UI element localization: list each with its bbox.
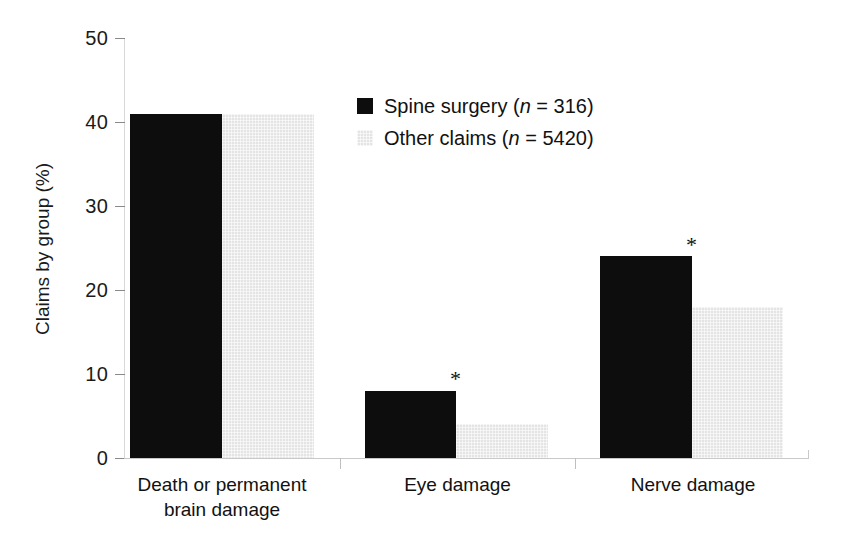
legend-label-prefix: Other claims ( bbox=[384, 127, 508, 149]
x-label-nerve-damage: Nerve damage bbox=[598, 472, 788, 497]
bar-spine-surgery-death-brain-damage bbox=[130, 114, 222, 458]
y-tick-label-40-wrap: 40 bbox=[52, 112, 108, 132]
y-tick-20 bbox=[115, 290, 125, 291]
x-label-line-1: Nerve damage bbox=[598, 472, 788, 497]
y-tick-label-20: 20 bbox=[60, 280, 108, 300]
legend-label-suffix: = 316) bbox=[531, 95, 594, 117]
y-tick-label-10: 10 bbox=[60, 364, 108, 384]
x-label-line-1: Eye damage bbox=[365, 472, 550, 497]
legend: Spine surgery (n = 316) Other claims (n … bbox=[357, 90, 594, 154]
bar-chart: Claims by group (%) 50 40 30 20 10 0 * *… bbox=[0, 0, 841, 536]
legend-item-spine-surgery: Spine surgery (n = 316) bbox=[357, 90, 594, 122]
y-tick-10 bbox=[115, 374, 125, 375]
x-axis-line bbox=[124, 458, 809, 459]
y-axis-title: Claims by group (%) bbox=[32, 109, 54, 389]
legend-swatch-dark-icon bbox=[357, 98, 373, 114]
bar-other-claims-death-brain-damage bbox=[222, 114, 314, 458]
legend-item-other-claims: Other claims (n = 5420) bbox=[357, 122, 594, 154]
significance-star-nerve-damage: * bbox=[686, 234, 697, 256]
legend-label-italic-n: n bbox=[508, 127, 519, 149]
legend-swatch-light-icon bbox=[357, 130, 373, 146]
y-tick-label-40: 40 bbox=[60, 112, 108, 132]
y-tick-label-50: 50 bbox=[60, 28, 108, 48]
y-tick-50 bbox=[115, 38, 125, 39]
y-tick-40 bbox=[115, 122, 125, 123]
bar-spine-surgery-eye-damage bbox=[365, 391, 456, 458]
x-label-eye-damage: Eye damage bbox=[365, 472, 550, 497]
bar-other-claims-eye-damage bbox=[456, 424, 548, 458]
y-tick-label-0: 0 bbox=[60, 448, 108, 468]
x-label-line-1: Death or permanent bbox=[112, 472, 332, 497]
x-label-line-2: brain damage bbox=[112, 497, 332, 522]
legend-label-prefix: Spine surgery ( bbox=[384, 95, 520, 117]
bar-other-claims-nerve-damage bbox=[692, 307, 783, 458]
legend-label-spine-surgery: Spine surgery (n = 316) bbox=[384, 95, 594, 117]
y-tick-label-20-wrap: 20 bbox=[52, 280, 108, 300]
x-separator-tick-1 bbox=[340, 458, 341, 469]
x-separator-tick-2 bbox=[575, 458, 576, 469]
legend-label-suffix: = 5420) bbox=[520, 127, 594, 149]
x-label-death-brain-damage: Death or permanent brain damage bbox=[112, 472, 332, 522]
y-tick-label-30: 30 bbox=[60, 196, 108, 216]
x-axis-end-tick bbox=[808, 450, 809, 459]
y-tick-label-30-wrap: 30 bbox=[52, 196, 108, 216]
legend-label-other-claims: Other claims (n = 5420) bbox=[384, 127, 594, 149]
legend-label-italic-n: n bbox=[520, 95, 531, 117]
y-axis-line bbox=[124, 38, 125, 459]
y-tick-label-0-wrap: 0 bbox=[52, 448, 108, 468]
bar-spine-surgery-nerve-damage bbox=[600, 256, 692, 458]
significance-star-eye-damage: * bbox=[450, 368, 461, 390]
y-tick-label-10-wrap: 10 bbox=[52, 364, 108, 384]
y-tick-label-50-wrap: 50 bbox=[52, 28, 108, 48]
y-tick-30 bbox=[115, 206, 125, 207]
